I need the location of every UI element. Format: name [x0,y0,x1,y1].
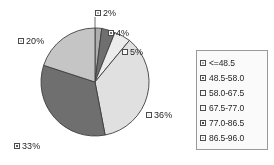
data-label-slice5-text: 20% [26,36,44,46]
data-label-slice5: 20% [18,36,44,46]
legend-label-0: <=48.5 [209,58,235,68]
chart-root: 2% 4% 5% 36% 33% 20% <=48.5 [0,0,274,165]
data-label-slice0-text: 2% [103,8,116,18]
data-label-slice1-text: 4% [116,28,129,38]
data-label-slice3: 36% [146,110,172,120]
legend-swatch-1 [200,75,206,81]
legend-item-5[interactable]: 86.5-96.0 [200,130,267,145]
data-label-slice4-text: 33% [22,141,40,151]
legend-swatch-0 [200,60,206,66]
swatch-slice1 [108,30,114,36]
data-label-slice0: 2% [95,8,116,18]
legend-label-5: 86.5-96.0 [209,133,244,143]
legend-label-3: 67.5-77.0 [209,103,244,113]
legend-item-0[interactable]: <=48.5 [200,55,267,70]
legend-swatch-2 [200,90,206,96]
legend-swatch-3 [200,105,206,111]
legend-swatch-4 [200,120,206,126]
legend-label-2: 58.0-67.5 [209,88,244,98]
pie-slices [41,28,149,136]
pie-chart-area: 2% 4% 5% 36% 33% 20% [0,0,190,165]
legend-item-4[interactable]: 77.0-86.5 [200,115,267,130]
swatch-slice4 [14,143,20,149]
legend-item-1[interactable]: 48.5-58.0 [200,70,267,85]
data-label-slice2-text: 5% [130,47,143,57]
swatch-slice3 [146,112,152,118]
swatch-slice0 [95,10,101,16]
data-label-slice3-text: 36% [154,110,172,120]
chart-legend: <=48.5 48.5-58.0 58.0-67.5 67.5-77.0 77.… [196,50,268,150]
legend-item-3[interactable]: 67.5-77.0 [200,100,267,115]
swatch-slice5 [18,38,24,44]
legend-label-4: 77.0-86.5 [209,118,244,128]
swatch-slice2 [122,49,128,55]
data-label-slice1: 4% [108,28,129,38]
data-label-slice2: 5% [122,47,143,57]
legend-swatch-5 [200,135,206,141]
legend-label-1: 48.5-58.0 [209,73,244,83]
data-label-slice4: 33% [14,141,40,151]
legend-item-2[interactable]: 58.0-67.5 [200,85,267,100]
